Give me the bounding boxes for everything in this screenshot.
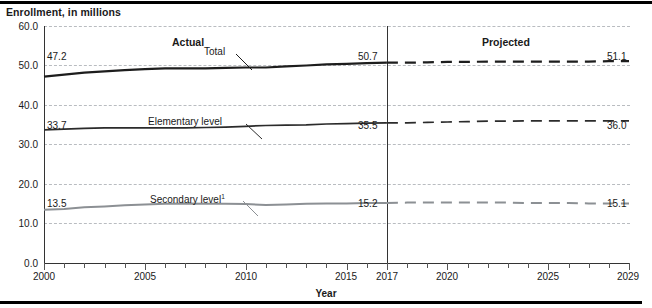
x-tick-2012 <box>286 263 287 268</box>
x-tick-2014 <box>326 263 327 268</box>
x-axis-title: Year <box>0 288 652 299</box>
series-label-secondary-text: Secondary level <box>150 194 221 205</box>
x-tick-label-2025: 2025 <box>528 271 568 282</box>
x-tick-label-2020: 2020 <box>427 271 467 282</box>
series-label-secondary-footnote: 1 <box>221 193 225 200</box>
x-tick-2028 <box>609 263 610 268</box>
x-tick-2003 <box>105 263 106 268</box>
x-tick-2000 <box>44 263 45 270</box>
x-tick-2024 <box>528 263 529 268</box>
series-label-total: Total <box>204 46 225 57</box>
x-tick-2007 <box>185 263 186 268</box>
x-tick-2025 <box>548 263 549 270</box>
value-label-total-start: 47.2 <box>47 51 66 62</box>
x-tick-2005 <box>145 263 146 270</box>
x-tick-2009 <box>226 263 227 268</box>
x-tick-2029 <box>629 263 630 270</box>
series-line-actual-total <box>44 63 387 77</box>
x-tick-2006 <box>165 263 166 268</box>
value-label-elementary-end: 36.0 <box>607 120 626 131</box>
x-tick-2008 <box>205 263 206 268</box>
x-tick-2022 <box>488 263 489 268</box>
series-line-projected-elementary-level <box>387 121 629 123</box>
value-label-total-mid: 50.7 <box>358 51 377 62</box>
x-tick-2011 <box>266 263 267 268</box>
x-tick-2013 <box>306 263 307 268</box>
x-tick-2001 <box>64 263 65 268</box>
x-tick-label-2017: 2017 <box>367 271 407 282</box>
series-label-secondary: Secondary level1 <box>150 193 225 205</box>
x-tick-2004 <box>125 263 126 268</box>
x-tick-label-2015: 2015 <box>326 271 366 282</box>
value-label-secondary-end: 15.1 <box>607 198 626 209</box>
value-label-total-end: 51.1 <box>607 51 626 62</box>
x-tick-label-2010: 2010 <box>226 271 266 282</box>
x-tick-2002 <box>84 263 85 268</box>
x-tick-2017 <box>387 263 388 270</box>
x-tick-2010 <box>246 263 247 270</box>
x-tick-2026 <box>569 263 570 268</box>
x-tick-label-2000: 2000 <box>24 271 64 282</box>
series-label-elementary: Elementary level <box>148 116 222 127</box>
x-tick-2018 <box>407 263 408 268</box>
value-label-elementary-start: 33.7 <box>47 120 66 131</box>
x-tick-2015 <box>347 263 348 270</box>
x-tick-2019 <box>427 263 428 268</box>
x-tick-label-2005: 2005 <box>125 271 165 282</box>
leader-line-secondary <box>243 201 258 216</box>
value-label-secondary-start: 13.5 <box>47 198 66 209</box>
x-tick-label-2029: 2029 <box>608 271 648 282</box>
series-line-projected-total <box>387 61 629 63</box>
value-label-elementary-mid: 35.5 <box>358 120 377 131</box>
chart-plot-area <box>0 0 652 308</box>
projected-period-label: Projected <box>482 36 530 48</box>
x-tick-2023 <box>508 263 509 268</box>
x-tick-2027 <box>589 263 590 268</box>
value-label-secondary-mid: 15.2 <box>358 198 377 209</box>
actual-period-label: Actual <box>172 36 204 48</box>
x-tick-2021 <box>468 263 469 268</box>
series-line-projected-secondary-level <box>387 203 629 204</box>
x-tick-2016 <box>367 263 368 268</box>
x-tick-2020 <box>447 263 448 270</box>
